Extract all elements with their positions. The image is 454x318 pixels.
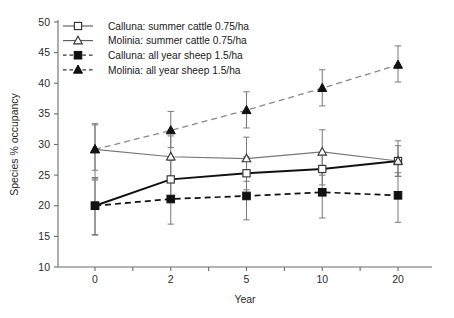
data-point-filled-triangle (242, 105, 251, 113)
data-point-filled-triangle (318, 83, 327, 91)
data-point-open-square (319, 165, 326, 172)
line-chart-plot: 1015202530354045500251020YearSpecies % o… (0, 0, 454, 318)
chart-figure: 1015202530354045500251020YearSpecies % o… (0, 0, 454, 318)
data-point-filled-square (167, 195, 175, 203)
legend-label-2: Molinia: summer cattle 0.75/ha (108, 35, 247, 46)
data-point-open-triangle (318, 147, 326, 155)
legend-label-1: Calluna: summer cattle 0.75/ha (108, 21, 249, 32)
data-point-filled-triangle (74, 65, 83, 73)
data-point-filled-square (394, 192, 402, 200)
data-point-open-square (243, 170, 250, 177)
chart-legend: Calluna: summer cattle 0.75/haMolinia: s… (63, 21, 249, 76)
x-axis-tick-label: 2 (168, 273, 174, 285)
y-axis-tick-label: 40 (38, 77, 50, 89)
data-point-filled-square (318, 188, 326, 196)
x-axis-title: Year (234, 293, 256, 305)
y-axis-tick-label: 50 (38, 16, 50, 28)
legend-marker-3 (74, 51, 82, 59)
y-axis-tick-label: 30 (38, 138, 50, 150)
data-point-open-square (167, 176, 174, 183)
x-axis-tick-label: 0 (92, 273, 98, 285)
legend-marker-4 (74, 65, 83, 73)
legend-label-3: Calluna: all year sheep 1.5/ha (108, 50, 243, 61)
data-point-filled-square (91, 202, 99, 210)
y-axis-tick-label: 45 (38, 46, 50, 58)
x-axis-tick-label: 5 (244, 273, 250, 285)
data-point-filled-square (74, 51, 82, 59)
y-axis-title: Species % occupancy (8, 92, 20, 195)
y-axis-tick-label: 35 (38, 107, 50, 119)
data-point-filled-triangle (394, 60, 403, 68)
y-axis-tick-label: 10 (38, 261, 50, 273)
y-axis-tick-label: 15 (38, 230, 50, 242)
y-axis-tick-label: 25 (38, 169, 50, 181)
legend-marker-1 (74, 22, 81, 29)
data-point-open-triangle (74, 36, 82, 44)
legend-label-4: Molinia: all year sheep 1.5/ha (108, 65, 241, 76)
legend-marker-2 (74, 36, 82, 44)
x-axis-tick-label: 10 (316, 273, 328, 285)
y-axis-tick-label: 20 (38, 199, 50, 211)
data-point-open-square (74, 22, 81, 29)
x-axis-tick-label: 20 (392, 273, 404, 285)
data-point-filled-square (243, 192, 251, 200)
